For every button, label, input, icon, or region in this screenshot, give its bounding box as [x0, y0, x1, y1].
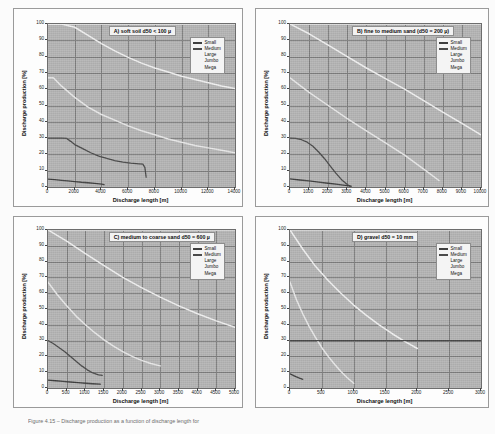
series-line-large	[48, 78, 235, 153]
x-tick-mark	[327, 187, 328, 190]
y-tick-label: 90	[25, 37, 44, 42]
x-tick-mark	[321, 388, 322, 391]
x-tick-label: 10000	[167, 190, 195, 195]
y-tick-mark	[287, 261, 290, 262]
x-tick-mark	[404, 187, 405, 190]
legend-swatch-mega	[193, 273, 202, 275]
series-line-small	[48, 380, 100, 384]
y-tick-label: 30	[267, 135, 286, 140]
chart-panel-a: 0102030405060708090100020004000600080001…	[0, 0, 248, 210]
legend-swatch-small	[439, 248, 448, 250]
y-tick-label: 10	[25, 167, 44, 172]
y-tick-mark	[287, 137, 290, 138]
legend-d: SmallMediumLargeJumboMega	[436, 243, 471, 280]
y-tick-label: 20	[25, 151, 44, 156]
x-tick-label: 2500	[434, 391, 462, 396]
x-tick-mark	[385, 187, 386, 190]
y-tick-mark	[45, 229, 48, 230]
y-axis-label-b: Discharge production [%]	[263, 70, 269, 136]
x-axis-label-a: Discharge length [m]	[47, 197, 234, 203]
x-tick-mark	[234, 388, 235, 391]
y-tick-label: 60	[267, 86, 286, 91]
panel-grid: 0102030405060708090100020004000600080001…	[0, 0, 495, 412]
legend-b: SmallMediumLargeJumboMega	[436, 37, 471, 74]
x-tick-label: 0	[275, 391, 303, 396]
y-tick-mark	[287, 292, 290, 293]
y-tick-label: 70	[25, 70, 44, 75]
legend-swatch-large	[439, 55, 448, 57]
x-tick-mark	[154, 187, 155, 190]
y-tick-mark	[287, 23, 290, 24]
series-line-small	[48, 179, 104, 184]
legend-label-medium: Medium	[451, 47, 467, 52]
chart-panel-d: 0102030405060708090100050010001500200025…	[248, 210, 495, 412]
legend-label-medium: Medium	[205, 253, 221, 258]
x-tick-mark	[103, 388, 104, 391]
chart-panel-b: 0102030405060708090100010002000300040005…	[248, 0, 495, 210]
legend-swatch-jumbo	[439, 61, 448, 63]
y-tick-mark	[287, 276, 290, 277]
legend-label-jumbo: Jumbo	[451, 59, 465, 64]
y-tick-label: 40	[267, 119, 286, 124]
legend-label-jumbo: Jumbo	[205, 265, 219, 270]
chart-card-a: 0102030405060708090100020004000600080001…	[13, 8, 243, 207]
y-tick-mark	[45, 137, 48, 138]
x-tick-label: 2000	[402, 391, 430, 396]
x-tick-mark	[74, 187, 75, 190]
y-axis-label-c: Discharge production [%]	[21, 273, 27, 339]
y-tick-mark	[287, 371, 290, 372]
y-tick-label: 40	[267, 322, 286, 327]
x-tick-mark	[127, 187, 128, 190]
x-tick-mark	[215, 388, 216, 391]
legend-swatch-medium	[439, 254, 448, 256]
x-tick-mark	[480, 187, 481, 190]
y-tick-label: 70	[267, 70, 286, 75]
y-tick-label: 100	[267, 21, 286, 26]
legend-swatch-medium	[193, 48, 202, 50]
y-tick-label: 50	[267, 102, 286, 107]
x-tick-mark	[353, 388, 354, 391]
x-tick-label: 3000	[466, 391, 494, 396]
x-tick-mark	[66, 388, 67, 391]
y-tick-mark	[45, 324, 48, 325]
series-line-jumbo	[290, 230, 417, 349]
y-tick-mark	[45, 121, 48, 122]
chart-card-c: 0102030405060708090100050010001500200025…	[13, 216, 243, 408]
legend-label-jumbo: Jumbo	[451, 265, 465, 270]
y-tick-mark	[287, 105, 290, 106]
chart-panel-c: 0102030405060708090100050010001500200025…	[0, 210, 248, 412]
y-tick-label: 30	[25, 337, 44, 342]
series-line-medium	[48, 138, 146, 177]
x-axis-label-c: Discharge length [m]	[47, 398, 234, 404]
x-tick-mark	[423, 187, 424, 190]
legend-item-mega: Mega	[439, 65, 467, 71]
x-tick-mark	[365, 187, 366, 190]
y-tick-label: 50	[25, 102, 44, 107]
y-tick-label: 20	[267, 353, 286, 358]
x-tick-mark	[448, 388, 449, 391]
y-tick-label: 50	[267, 306, 286, 311]
x-tick-mark	[84, 388, 85, 391]
x-tick-mark	[289, 388, 290, 391]
x-tick-label: 1000	[339, 391, 367, 396]
legend-label-mega: Mega	[451, 272, 463, 277]
y-tick-label: 0	[25, 385, 44, 390]
y-tick-mark	[287, 39, 290, 40]
x-tick-mark	[461, 187, 462, 190]
legend-swatch-jumbo	[193, 61, 202, 63]
legend-label-mega: Mega	[205, 272, 217, 277]
legend-label-large: Large	[451, 259, 463, 264]
y-tick-mark	[45, 245, 48, 246]
legend-label-small: Small	[205, 41, 217, 46]
x-tick-mark	[308, 187, 309, 190]
legend-label-mega: Mega	[451, 66, 463, 71]
y-tick-label: 90	[267, 37, 286, 42]
legend-swatch-medium	[439, 48, 448, 50]
y-tick-mark	[45, 39, 48, 40]
x-tick-mark	[181, 187, 182, 190]
y-tick-mark	[45, 170, 48, 171]
panel-title-c: C) medium to coarse sand d50 = 600 µ	[109, 232, 215, 242]
legend-swatch-small	[193, 42, 202, 44]
y-tick-mark	[287, 245, 290, 246]
y-tick-label: 90	[267, 243, 286, 248]
